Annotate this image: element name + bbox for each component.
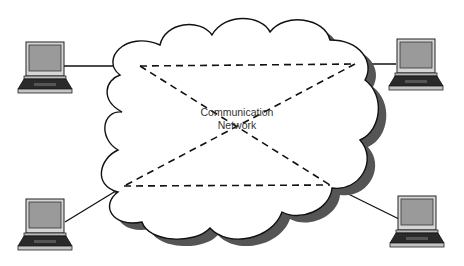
laptop-icon-top-left — [18, 42, 72, 93]
cloud-label-line2: Network — [218, 119, 257, 131]
laptop-icon-top-right — [389, 39, 443, 90]
laptop-icon-bottom-left — [18, 199, 72, 250]
network-diagram: Communication Network — [0, 0, 464, 266]
cloud-label-line1: Communication — [201, 106, 274, 118]
laptop-icon-bottom-right — [390, 196, 444, 247]
